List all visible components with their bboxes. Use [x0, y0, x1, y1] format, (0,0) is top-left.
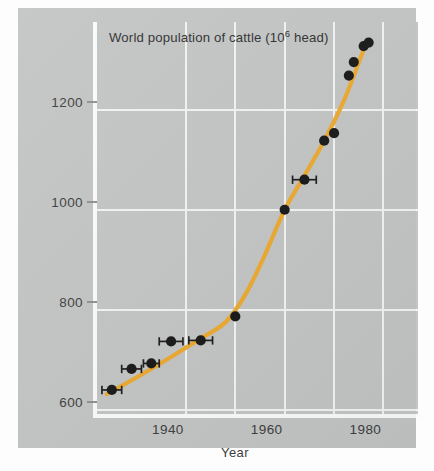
x-axis-title: Year: [18, 445, 434, 460]
data-point: [349, 57, 359, 67]
chart-title-tail: head): [290, 30, 328, 45]
trend-curve-layer: [107, 50, 364, 394]
x-tick-label: 1940: [152, 422, 184, 437]
x-tick-label: 1980: [350, 422, 382, 437]
data-point: [230, 311, 240, 321]
y-tick-label: 1200: [51, 94, 83, 109]
y-tick-mark: [87, 201, 97, 203]
y-tick-label: 1000: [51, 194, 83, 209]
y-tick-mark: [87, 401, 97, 403]
data-point: [196, 335, 206, 345]
plot-area: [97, 22, 418, 414]
y-tick-label: 800: [59, 294, 83, 309]
chart-title-main: World population of cattle (10: [109, 30, 285, 45]
x-tick-label: 1960: [251, 422, 283, 437]
y-tick-mark: [87, 101, 97, 103]
data-point: [364, 37, 374, 47]
x-axis-line: [93, 414, 422, 418]
data-point: [107, 385, 117, 395]
figure-root: World population of cattle (106 head) 60…: [0, 0, 434, 471]
y-axis-line: [93, 22, 97, 418]
y-tick-mark: [87, 301, 97, 303]
data-point: [344, 70, 354, 80]
plot-svg: [97, 22, 418, 414]
chart-card: World population of cattle (106 head) 60…: [18, 8, 416, 448]
data-point: [319, 136, 329, 146]
trend-curve: [107, 50, 364, 394]
data-point: [126, 364, 136, 374]
y-tick-label: 600: [59, 394, 83, 409]
data-point: [280, 205, 290, 215]
data-point: [299, 175, 309, 185]
data-points-layer: [102, 37, 374, 395]
data-point: [146, 358, 156, 368]
data-point: [329, 128, 339, 138]
data-point: [166, 336, 176, 346]
chart-title: World population of cattle (106 head): [109, 28, 329, 45]
